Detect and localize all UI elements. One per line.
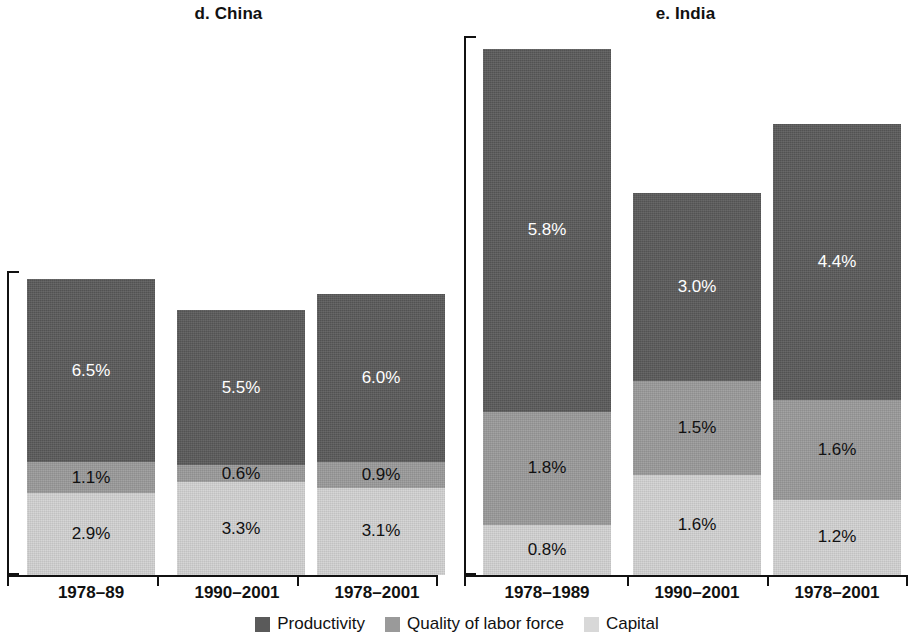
x-axis-label-china-2: 1990–2001 (157, 583, 317, 603)
segment-value-label: 3.0% (678, 277, 717, 297)
bar-segment-capital[interactable]: 1.2% (773, 500, 901, 575)
bar-segment-capital[interactable]: 0.8% (483, 525, 611, 575)
x-axis-tick (464, 575, 466, 586)
bar-segment-quality-of-labor-force[interactable]: 1.5% (633, 381, 761, 475)
legend-label: Productivity (277, 614, 365, 634)
x-axis-label-china-1: 1978–89 (11, 583, 171, 603)
panel-title-india: e. India (457, 4, 914, 24)
segment-value-label: 1.1% (72, 468, 111, 488)
bar-india-1978-1989[interactable]: 5.8% 1.8% 0.8% (483, 49, 611, 575)
segment-value-label: 1.6% (678, 515, 717, 535)
segment-value-label: 0.9% (362, 465, 401, 485)
stacked-bar-figure: d. China 6.5% 1.1% 2.9% 5.5% 0.6% 3.3% 6… (0, 0, 914, 643)
x-axis-label-india-1: 1978–1989 (467, 583, 627, 603)
segment-value-label: 1.5% (678, 418, 717, 438)
y-axis-tick-top-india (464, 36, 476, 38)
bar-segment-productivity[interactable]: 3.0% (633, 193, 761, 381)
segment-value-label: 1.6% (818, 440, 857, 460)
bar-segment-productivity[interactable]: 4.4% (773, 124, 901, 400)
legend-swatch-icon (385, 617, 400, 632)
bar-segment-quality-of-labor-force[interactable]: 1.6% (773, 400, 901, 500)
legend-swatch-icon (255, 617, 270, 632)
bar-segment-productivity[interactable]: 5.5% (177, 310, 305, 465)
y-axis-india (464, 36, 466, 575)
bar-segment-capital[interactable]: 1.6% (633, 475, 761, 575)
bar-segment-quality-of-labor-force[interactable]: 0.9% (317, 462, 445, 487)
legend: Productivity Quality of labor force Capi… (0, 614, 914, 634)
bar-india-1990-2001[interactable]: 3.0% 1.5% 1.6% (633, 193, 761, 575)
legend-item-quality-of-labor-force[interactable]: Quality of labor force (385, 614, 564, 634)
bar-china-1978-2001[interactable]: 6.0% 0.9% 3.1% (317, 294, 445, 575)
bar-segment-capital[interactable]: 2.9% (27, 493, 155, 575)
x-axis-label-china-3: 1978–2001 (297, 583, 457, 603)
legend-label: Quality of labor force (407, 614, 564, 634)
segment-value-label: 3.3% (222, 519, 261, 539)
y-axis-tick-top-china (7, 271, 19, 273)
y-axis-china (7, 271, 9, 575)
bar-segment-capital[interactable]: 3.1% (317, 488, 445, 575)
bar-segment-quality-of-labor-force[interactable]: 0.6% (177, 465, 305, 482)
segment-value-label: 3.1% (362, 521, 401, 541)
segment-value-label: 6.5% (72, 361, 111, 381)
x-axis-china (7, 575, 436, 577)
bar-segment-productivity[interactable]: 6.0% (317, 294, 445, 463)
x-axis-india (464, 575, 907, 577)
segment-value-label: 0.6% (222, 464, 261, 484)
x-axis-label-india-2: 1990–2001 (617, 583, 777, 603)
segment-value-label: 1.2% (818, 527, 857, 547)
segment-value-label: 1.8% (528, 458, 567, 478)
bar-segment-productivity[interactable]: 5.8% (483, 49, 611, 413)
segment-value-label: 6.0% (362, 368, 401, 388)
legend-label: Capital (606, 614, 659, 634)
x-axis-tick (7, 575, 9, 586)
legend-item-productivity[interactable]: Productivity (255, 614, 365, 634)
bar-segment-productivity[interactable]: 6.5% (27, 279, 155, 462)
legend-swatch-icon (584, 617, 599, 632)
segment-value-label: 5.5% (222, 378, 261, 398)
bar-china-1978-89[interactable]: 6.5% 1.1% 2.9% (27, 279, 155, 575)
bar-segment-quality-of-labor-force[interactable]: 1.1% (27, 462, 155, 493)
bar-china-1990-2001[interactable]: 5.5% 0.6% 3.3% (177, 310, 305, 575)
segment-value-label: 2.9% (72, 524, 111, 544)
x-axis-label-india-3: 1978–2001 (757, 583, 914, 603)
bar-segment-quality-of-labor-force[interactable]: 1.8% (483, 412, 611, 525)
segment-value-label: 4.4% (818, 252, 857, 272)
segment-value-label: 5.8% (528, 220, 567, 240)
bar-segment-capital[interactable]: 3.3% (177, 482, 305, 575)
panel-title-china: d. China (0, 4, 457, 24)
segment-value-label: 0.8% (528, 540, 567, 560)
bar-india-1978-2001[interactable]: 4.4% 1.6% 1.2% (773, 124, 901, 575)
legend-item-capital[interactable]: Capital (584, 614, 659, 634)
